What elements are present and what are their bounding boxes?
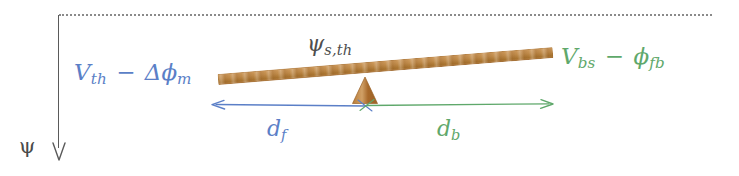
label-left-var2-sub: m: [177, 70, 192, 88]
label-df-var1-sub: f: [281, 127, 287, 143]
label-right-var2-sub: fb: [649, 54, 665, 72]
label-right-potential: Vbs − ϕfb: [561, 45, 665, 71]
lever-beam: [218, 47, 554, 85]
label-left-var2: Δϕ: [145, 59, 177, 85]
distance-back-arrow: [360, 100, 553, 111]
label-left-var1-sub: th: [91, 70, 107, 88]
label-left-operator: −: [114, 59, 137, 85]
fulcrum-triangle-icon: [350, 76, 380, 105]
label-left-potential: Vth − Δϕm: [74, 61, 192, 87]
diagram-canvas: ψ: [0, 0, 739, 176]
dotted-reference-line: [59, 14, 712, 16]
label-surface-potential: ψs,th: [307, 33, 352, 58]
label-center-var1: ψ: [307, 31, 324, 56]
psi-axis-line: [58, 15, 59, 148]
psi-axis-label: ψ: [19, 136, 35, 157]
label-right-var2: ϕ: [633, 43, 649, 69]
label-center-var1-sub: s,th: [324, 42, 352, 58]
label-db-var1-sub: b: [451, 127, 461, 143]
label-right-operator: −: [603, 43, 626, 69]
label-right-var1: V: [561, 43, 578, 69]
label-df-var1: d: [267, 116, 281, 141]
distance-front-arrow: [212, 100, 372, 111]
label-distance-front: df: [267, 118, 287, 143]
label-left-var1: V: [74, 59, 91, 85]
label-db-var1: d: [437, 116, 451, 141]
label-distance-back: db: [437, 118, 461, 143]
psi-axis-arrow-icon: [52, 142, 66, 162]
label-right-var1-sub: bs: [578, 54, 596, 72]
